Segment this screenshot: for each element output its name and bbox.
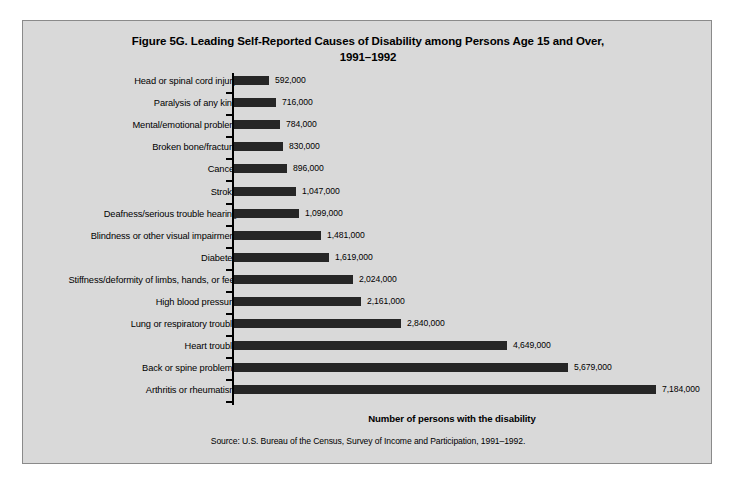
y-axis-tick (226, 269, 232, 271)
y-axis-tick (226, 225, 232, 227)
category-label: Head or spinal cord injury (134, 76, 237, 86)
bar-row: Arthritis or rheumatism7,184,000 (23, 382, 712, 404)
bar-row: Cancer896,000 (23, 161, 712, 183)
bar-row: Lung or respiratory trouble2,840,000 (23, 316, 712, 338)
bar-row: Mental/emotional problem784,000 (23, 117, 712, 139)
category-label: Deafness/serious trouble hearing (104, 209, 237, 219)
bar-row: Stiffness/deformity of limbs, hands, or … (23, 272, 712, 294)
bar-value-label: 1,099,000 (305, 208, 343, 218)
y-axis-tick (226, 180, 232, 182)
bar-row: Paralysis of any kind716,000 (23, 95, 712, 117)
source-note: Source: U.S. Bureau of the Census, Surve… (23, 436, 712, 446)
y-axis-tick (226, 291, 232, 293)
bar-row: High blood pressure2,161,000 (23, 294, 712, 316)
bar (234, 120, 280, 129)
bar (234, 76, 269, 85)
bar-value-label: 4,649,000 (513, 340, 551, 350)
bar-row: Broken bone/fracture830,000 (23, 139, 712, 161)
bar (234, 142, 283, 151)
y-axis-tick (226, 136, 232, 138)
bar-row: Diabetes1,619,000 (23, 250, 712, 272)
category-label: Lung or respiratory trouble (131, 319, 237, 329)
bar-row: Stroke1,047,000 (23, 184, 712, 206)
bar (234, 341, 507, 350)
bar-value-label: 2,024,000 (359, 274, 397, 284)
y-axis-tick (226, 313, 232, 315)
bar-value-label: 784,000 (286, 119, 317, 129)
bar (234, 253, 329, 262)
bar-row: Deafness/serious trouble hearing1,099,00… (23, 206, 712, 228)
bar-row: Blindness or other visual impairment1,48… (23, 228, 712, 250)
y-axis-tick (226, 357, 232, 359)
bar (234, 297, 361, 306)
category-label: Heart trouble (185, 341, 237, 351)
category-label: Broken bone/fracture (152, 142, 237, 152)
bar-row: Back or spine problems5,679,000 (23, 360, 712, 382)
category-label: Paralysis of any kind (154, 98, 237, 108)
bar-row: Heart trouble4,649,000 (23, 338, 712, 360)
bar-value-label: 2,840,000 (407, 318, 445, 328)
bar-value-label: 1,047,000 (302, 186, 340, 196)
bar-row: Head or spinal cord injury592,000 (23, 73, 712, 95)
bar (234, 164, 287, 173)
bar (234, 275, 353, 284)
y-axis-tick (226, 92, 232, 94)
plot-area: Head or spinal cord injury592,000Paralys… (23, 21, 712, 464)
bar (234, 363, 568, 372)
y-axis-tick (226, 203, 232, 205)
y-axis-tick (226, 158, 232, 160)
category-label: Cancer (208, 164, 237, 174)
category-label: Diabetes (201, 253, 237, 263)
category-label: Back or spine problems (142, 363, 237, 373)
bar (234, 209, 299, 218)
bar-value-label: 1,481,000 (327, 230, 365, 240)
y-axis-tick (226, 114, 232, 116)
bar-value-label: 896,000 (293, 163, 324, 173)
bar (234, 385, 656, 394)
bar (234, 231, 321, 240)
category-label: Stiffness/deformity of limbs, hands, or … (68, 275, 237, 285)
bar-value-label: 830,000 (289, 141, 320, 151)
y-axis-tick (226, 335, 232, 337)
y-axis-tick (226, 379, 232, 381)
bar-value-label: 592,000 (275, 75, 306, 85)
bar (234, 319, 401, 328)
category-label: Arthritis or rheumatism (146, 385, 237, 395)
x-axis-label: Number of persons with the disability (232, 413, 672, 424)
category-label: High blood pressure (156, 297, 237, 307)
bar-value-label: 1,619,000 (335, 252, 373, 262)
bar-value-label: 5,679,000 (574, 362, 612, 372)
figure-frame: Figure 5G. Leading Self-Reported Causes … (22, 20, 712, 464)
bar (234, 98, 276, 107)
y-axis-tick (226, 401, 232, 403)
bar-value-label: 2,161,000 (367, 296, 405, 306)
category-label: Mental/emotional problem (132, 120, 237, 130)
category-label: Blindness or other visual impairment (91, 231, 237, 241)
bar-value-label: 7,184,000 (662, 384, 700, 394)
y-axis-tick (226, 247, 232, 249)
bar (234, 187, 296, 196)
bar-value-label: 716,000 (282, 97, 313, 107)
